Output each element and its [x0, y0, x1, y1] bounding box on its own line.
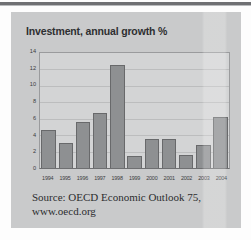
x-axis-tick-1999: 1999 — [126, 171, 143, 185]
y-axis: 02468101214 — [21, 52, 38, 169]
bar-1995 — [59, 143, 73, 168]
bar-slot — [143, 53, 160, 168]
chart-title: Investment, annual growth % — [26, 25, 167, 37]
page-top-rule-secondary — [0, 5, 251, 6]
bar-1997 — [93, 113, 107, 168]
bar-slot — [109, 53, 126, 168]
bar-slot — [74, 53, 91, 168]
figure-page: Investment, annual growth % 02468101214 … — [0, 0, 251, 240]
bar-slot — [160, 53, 177, 168]
bar-1998 — [110, 65, 124, 168]
x-axis-tick-2004: 2004 — [213, 171, 230, 185]
y-axis-tick-6: 6 — [33, 116, 36, 122]
bar-1996 — [76, 122, 90, 168]
y-axis-tick-12: 12 — [30, 66, 36, 72]
bar-2004 — [213, 117, 227, 168]
x-axis-tick-1995: 1995 — [56, 171, 73, 185]
y-axis-tick-10: 10 — [30, 83, 36, 89]
x-axis-tick-2003: 2003 — [195, 171, 212, 185]
x-axis-tick-1994: 1994 — [39, 171, 56, 185]
bar-slot — [212, 53, 229, 168]
x-axis-tick-2000: 2000 — [143, 171, 160, 185]
bar-2000 — [145, 139, 159, 168]
y-axis-tick-14: 14 — [30, 49, 36, 55]
bar-2003 — [196, 145, 210, 168]
bar-2001 — [162, 139, 176, 168]
bar-slot — [126, 53, 143, 168]
plot-area — [39, 52, 230, 169]
bar-1994 — [41, 130, 55, 168]
y-axis-tick-0: 0 — [33, 166, 36, 172]
bar-slot — [40, 53, 57, 168]
plot-area-wrapper: 02468101214 1994199519961997199819992000… — [21, 52, 233, 177]
source-line-1: Source: OECD Economic Outlook 75, — [32, 190, 228, 204]
source-line-2: www.oecd.org — [32, 204, 228, 218]
x-axis: 1994199519961997199819992000200120022003… — [39, 171, 230, 185]
y-axis-tick-4: 4 — [33, 133, 36, 139]
x-axis-tick-1996: 1996 — [74, 171, 91, 185]
bar-2002 — [179, 155, 193, 168]
bar-slot — [178, 53, 195, 168]
bar-series — [40, 53, 229, 168]
bar-slot — [57, 53, 74, 168]
x-axis-tick-2001: 2001 — [161, 171, 178, 185]
x-axis-tick-2002: 2002 — [178, 171, 195, 185]
bar-slot — [92, 53, 109, 168]
x-axis-tick-1997: 1997 — [91, 171, 108, 185]
y-axis-tick-2: 2 — [33, 149, 36, 155]
x-axis-tick-1998: 1998 — [108, 171, 125, 185]
y-axis-tick-8: 8 — [33, 99, 36, 105]
bar-1999 — [127, 156, 141, 168]
bar-slot — [195, 53, 212, 168]
chart-panel: Investment, annual growth % 02468101214 … — [11, 12, 241, 228]
source-note: Source: OECD Economic Outlook 75, www.oe… — [32, 190, 228, 218]
